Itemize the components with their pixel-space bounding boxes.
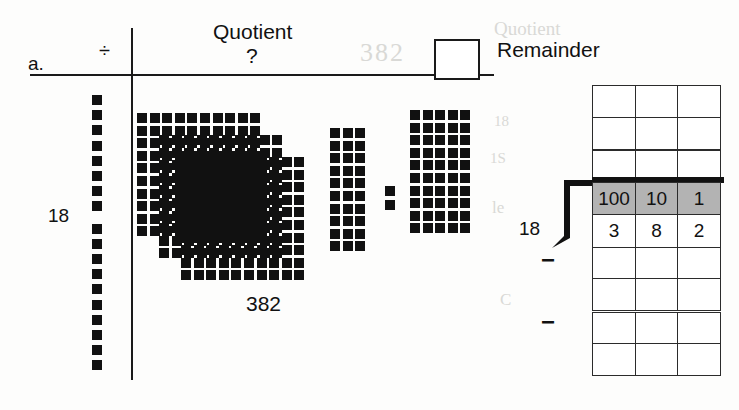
base-ten-unit-cube: [410, 223, 420, 233]
base-ten-unit-cube: [355, 153, 365, 163]
place-value-empty-cell[interactable]: [635, 117, 679, 150]
base-ten-unit-cube: [194, 182, 204, 192]
base-ten-unit-cube: [435, 173, 445, 183]
base-ten-unit-cube: [231, 170, 241, 180]
bleed-text-le: le: [492, 198, 504, 218]
base-ten-unit-cube: [244, 258, 254, 268]
place-value-empty-cell[interactable]: [635, 312, 679, 345]
base-ten-unit-cube: [92, 300, 102, 310]
base-ten-unit-cube: [435, 223, 445, 233]
base-ten-unit-cube: [257, 245, 267, 255]
base-ten-unit-cube: [250, 113, 260, 123]
place-value-row[interactable]: [592, 247, 721, 280]
base-ten-unit-cube: [159, 135, 169, 145]
place-value-empty-cell[interactable]: [677, 247, 721, 280]
base-ten-unit-cube: [92, 125, 102, 135]
base-ten-unit-cube: [272, 135, 282, 145]
base-ten-unit-cube: [257, 270, 267, 280]
base-ten-unit-cube: [343, 216, 353, 226]
base-ten-unit-cube: [206, 233, 216, 243]
horizontal-rule: [30, 74, 494, 76]
base-ten-unit-cube: [423, 110, 433, 120]
base-ten-unit-cube: [423, 198, 433, 208]
base-ten-unit-cube: [92, 156, 102, 166]
place-value-row[interactable]: [592, 343, 721, 376]
base-ten-unit-cube: [92, 284, 102, 294]
base-ten-unit-cube: [260, 135, 270, 145]
place-value-empty-cell[interactable]: [592, 117, 636, 150]
base-ten-unit-cube: [448, 223, 458, 233]
remainder-label: Remainder: [497, 38, 600, 62]
base-ten-unit-cube: [410, 135, 420, 145]
base-ten-unit-cube: [343, 178, 353, 188]
base-ten-unit-cube: [269, 207, 279, 217]
base-ten-unit-cube: [343, 128, 353, 138]
place-value-digit-cell: 8: [635, 214, 679, 248]
place-value-row[interactable]: [592, 85, 721, 118]
base-ten-unit-cube: [92, 345, 102, 355]
bleed-text-1s: 1S: [490, 150, 506, 167]
base-ten-unit-cube: [92, 269, 102, 279]
base-ten-unit-cube: [460, 148, 470, 158]
base-ten-unit-cube: [219, 270, 229, 280]
base-ten-unit-cube: [231, 245, 241, 255]
place-value-empty-cell[interactable]: [677, 343, 721, 376]
base-ten-unit-cube: [423, 148, 433, 158]
base-ten-unit-cube: [410, 198, 420, 208]
base-ten-unit-cube: [137, 189, 147, 199]
base-ten-unit-cube: [194, 207, 204, 217]
base-ten-unit-cube: [269, 157, 279, 167]
base-ten-unit-cube: [423, 211, 433, 221]
base-ten-unit-cube: [330, 216, 340, 226]
place-value-empty-cell[interactable]: [677, 278, 721, 311]
base-ten-unit-cube: [385, 186, 395, 196]
place-value-empty-cell[interactable]: [592, 247, 636, 280]
base-ten-unit-cube: [410, 160, 420, 170]
base-ten-unit-cube: [159, 185, 169, 195]
place-value-empty-cell[interactable]: [677, 117, 721, 150]
base-ten-unit-cube: [222, 135, 232, 145]
bleed-text-382: 382: [360, 38, 405, 68]
base-ten-unit-cube: [92, 254, 102, 264]
base-ten-unit-cube: [137, 163, 147, 173]
place-value-empty-cell[interactable]: [635, 85, 679, 118]
base-ten-unit-cube: [159, 248, 169, 258]
place-value-empty-cell[interactable]: [592, 312, 636, 345]
place-value-empty-cell[interactable]: [592, 278, 636, 311]
place-value-empty-cell[interactable]: [592, 343, 636, 376]
base-ten-unit-cube: [209, 135, 219, 145]
base-ten-unit-cube: [181, 157, 191, 167]
base-ten-unit-cube: [460, 173, 470, 183]
base-ten-unit-cube: [269, 182, 279, 192]
base-ten-unit-cube: [282, 258, 292, 268]
place-value-row: 382: [592, 214, 721, 248]
place-value-empty-cell[interactable]: [592, 85, 636, 118]
base-ten-unit-cube: [355, 166, 365, 176]
place-value-row[interactable]: [592, 278, 721, 311]
base-ten-unit-cube: [282, 157, 292, 167]
base-ten-unit-cube: [257, 233, 267, 243]
bleed-text-quotient: Quotient: [494, 18, 561, 40]
place-value-empty-cell[interactable]: [677, 85, 721, 118]
answer-box[interactable]: [434, 39, 480, 80]
base-ten-unit-cube: [423, 223, 433, 233]
base-ten-unit-cube: [448, 173, 458, 183]
bleed-text-c: C: [500, 290, 511, 310]
base-ten-unit-cube: [257, 157, 267, 167]
base-ten-unit-cube: [355, 216, 365, 226]
place-value-empty-cell[interactable]: [635, 343, 679, 376]
place-value-empty-cell[interactable]: [635, 278, 679, 311]
place-value-empty-cell[interactable]: [677, 312, 721, 345]
place-value-row[interactable]: [592, 117, 721, 150]
base-ten-unit-cube: [181, 270, 191, 280]
base-ten-unit-cube: [206, 157, 216, 167]
place-value-row[interactable]: [592, 312, 721, 345]
base-ten-unit-cube: [423, 186, 433, 196]
base-ten-unit-cube: [423, 160, 433, 170]
base-ten-unit-cube: [194, 220, 204, 230]
base-ten-unit-cube: [244, 245, 254, 255]
base-ten-unit-cube: [159, 160, 169, 170]
place-value-empty-cell[interactable]: [635, 247, 679, 280]
base-ten-unit-cube: [219, 170, 229, 180]
base-ten-unit-cube: [206, 245, 216, 255]
